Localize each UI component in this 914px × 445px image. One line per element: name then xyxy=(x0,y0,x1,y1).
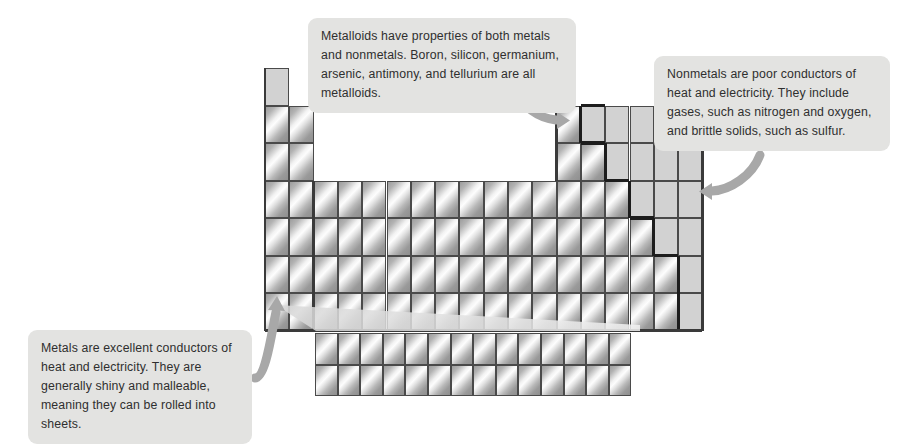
inner-block-cell xyxy=(451,365,474,397)
inner-block-cell xyxy=(360,365,383,397)
element-cell xyxy=(678,256,702,294)
element-cell xyxy=(362,256,386,294)
element-cell xyxy=(338,181,362,219)
element-cell xyxy=(411,181,435,219)
inner-block-cell xyxy=(564,365,587,397)
inner-block-cell xyxy=(315,333,338,365)
element-cell xyxy=(289,256,313,294)
staircase-segment xyxy=(581,104,605,107)
element-cell xyxy=(314,181,338,219)
inner-block-cell xyxy=(405,333,428,365)
callout-metals-text: Metals are excellent conductors of heat … xyxy=(41,339,239,434)
element-cell xyxy=(581,181,605,219)
inner-block-cell xyxy=(360,333,383,365)
inner-block-cell xyxy=(315,365,338,397)
element-cell xyxy=(265,143,289,181)
inner-block-cell xyxy=(564,333,587,365)
element-cell xyxy=(654,256,678,294)
element-cell xyxy=(314,293,338,331)
inner-block-cell xyxy=(428,333,451,365)
element-cell xyxy=(557,181,581,219)
inner-block-cell xyxy=(541,333,564,365)
staircase-segment xyxy=(581,141,605,144)
inner-block-cell xyxy=(586,365,609,397)
element-cell xyxy=(484,218,508,256)
element-cell xyxy=(289,106,313,144)
element-cell xyxy=(314,218,338,256)
element-cell xyxy=(581,256,605,294)
staircase-segment xyxy=(605,179,629,182)
element-cell xyxy=(557,293,581,331)
element-cell xyxy=(362,218,386,256)
inner-block-cell xyxy=(518,333,541,365)
element-cell xyxy=(435,293,459,331)
element-cell xyxy=(581,218,605,256)
inner-block-cell xyxy=(609,365,632,397)
staircase-segment xyxy=(654,254,678,257)
element-cell xyxy=(605,218,629,256)
staircase-segment xyxy=(628,181,631,219)
element-cell xyxy=(678,181,702,219)
staircase-segment xyxy=(604,143,607,181)
callout-nonmetals-text: Nonmetals are poor conductors of heat an… xyxy=(667,65,877,141)
inner-block-cell xyxy=(541,365,564,397)
staircase-segment xyxy=(579,106,582,144)
element-cell xyxy=(678,293,702,331)
inner-block-cell xyxy=(338,333,361,365)
element-cell xyxy=(265,181,289,219)
element-cell xyxy=(630,256,654,294)
element-cell xyxy=(338,256,362,294)
inner-block-cell xyxy=(473,365,496,397)
element-cell xyxy=(532,181,556,219)
element-cell xyxy=(630,106,654,144)
callout-metals: Metals are excellent conductors of heat … xyxy=(28,330,252,444)
element-cell xyxy=(605,256,629,294)
inner-block-cell xyxy=(383,333,406,365)
inner-block-cell xyxy=(405,365,428,397)
staircase-segment xyxy=(630,216,654,219)
element-cell xyxy=(265,106,289,144)
element-cell xyxy=(581,293,605,331)
element-cell xyxy=(654,293,678,331)
element-cell xyxy=(289,293,313,331)
element-cell xyxy=(654,181,678,219)
element-cell xyxy=(265,293,289,331)
inner-block-cell xyxy=(586,333,609,365)
element-cell xyxy=(459,256,483,294)
element-cell xyxy=(532,256,556,294)
inner-block-cell xyxy=(473,333,496,365)
element-cell xyxy=(508,218,532,256)
element-cell xyxy=(411,256,435,294)
element-cell xyxy=(459,218,483,256)
element-cell xyxy=(362,293,386,331)
table-outer-edge xyxy=(555,106,557,181)
element-cell xyxy=(338,218,362,256)
element-cell xyxy=(411,293,435,331)
element-cell xyxy=(557,218,581,256)
element-cell xyxy=(630,218,654,256)
element-cell xyxy=(411,218,435,256)
callout-nonmetals: Nonmetals are poor conductors of heat an… xyxy=(654,56,890,151)
element-cell xyxy=(508,293,532,331)
element-cell xyxy=(605,181,629,219)
callout-metalloids: Metalloids have properties of both metal… xyxy=(308,18,576,113)
element-cell xyxy=(387,181,411,219)
inner-block-cell xyxy=(428,365,451,397)
element-cell xyxy=(557,256,581,294)
element-cell xyxy=(289,143,313,181)
inner-block-cell xyxy=(451,333,474,365)
element-cell xyxy=(484,293,508,331)
element-cell xyxy=(557,143,581,181)
element-cell xyxy=(532,293,556,331)
element-cell xyxy=(362,181,386,219)
element-cell xyxy=(484,181,508,219)
element-cell xyxy=(630,293,654,331)
staircase-segment xyxy=(677,256,680,331)
element-cell xyxy=(459,293,483,331)
element-cell xyxy=(265,218,289,256)
element-cell xyxy=(387,218,411,256)
element-cell xyxy=(435,218,459,256)
table-outer-edge xyxy=(265,329,702,331)
element-cell xyxy=(605,143,629,181)
callout-metalloids-text: Metalloids have properties of both metal… xyxy=(321,27,563,103)
